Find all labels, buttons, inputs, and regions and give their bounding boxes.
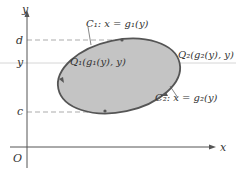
q2-label: Q₂(g₂(y), y) — [178, 49, 234, 60]
green-theorem-region-diagram: y x O d y c C₁: x = g₁(y) C₂: x = g₂(y) … — [0, 0, 236, 174]
c1-leader — [88, 27, 91, 45]
c-tick-label: c — [17, 105, 23, 118]
d-tick-label: d — [16, 34, 23, 47]
region-d — [51, 28, 187, 124]
origin-label: O — [13, 152, 22, 165]
c1-label: C₁: x = g₁(y) — [86, 18, 149, 29]
x-axis-arrow-icon — [209, 145, 216, 150]
top-point — [120, 38, 123, 41]
bottom-point — [103, 109, 106, 112]
y-tick-label: y — [16, 56, 24, 69]
c2-label: C₂: x = g₂(y) — [155, 92, 218, 103]
y-axis-label: y — [21, 3, 29, 16]
q1-label: Q₁(g₁(y), y) — [70, 56, 126, 67]
x-axis-label: x — [220, 141, 227, 154]
